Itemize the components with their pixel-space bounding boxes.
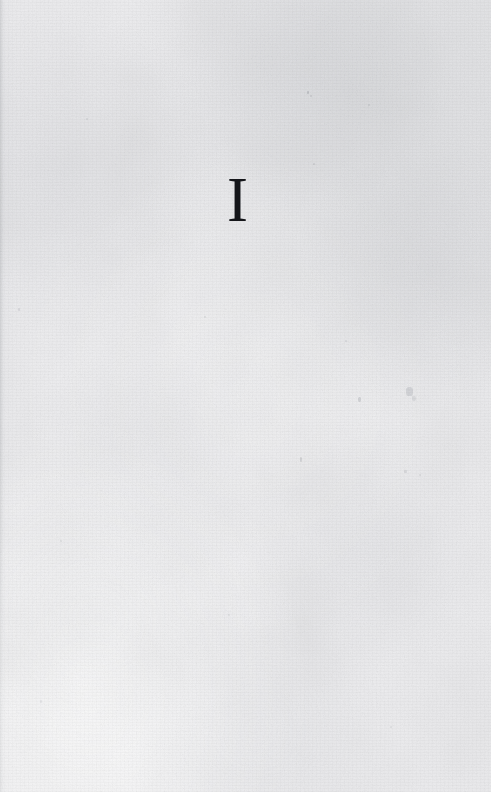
speck-right-of-numeral (313, 163, 315, 165)
scanned-page: I (0, 0, 491, 792)
speck-mid-center (204, 316, 206, 318)
paper-grain-overlay (0, 0, 491, 792)
speck-top-center (307, 91, 309, 94)
speck-right-low (404, 470, 407, 473)
speck-right-low-2 (419, 474, 421, 476)
speck-upper-left (86, 118, 88, 120)
speck-mid-left (18, 308, 20, 311)
speck-bottom-right (390, 726, 392, 728)
speck-lower-center (228, 614, 230, 616)
paper-noise-texture (0, 0, 491, 792)
part-numeral-block: I (0, 169, 491, 232)
speck-mid-right (345, 340, 347, 342)
speck-foxing-right (406, 387, 413, 396)
speck-foxing-right-2 (412, 396, 416, 401)
part-numeral: I (227, 169, 248, 232)
speck-bottom-left (40, 700, 42, 703)
paper-mottling-overlay (0, 0, 491, 792)
speck-center-low (300, 457, 302, 462)
speck-upper-right (368, 104, 370, 106)
speck-center-right (358, 397, 361, 402)
speck-lower-left (60, 540, 62, 542)
speck-top-center-2 (310, 95, 312, 97)
